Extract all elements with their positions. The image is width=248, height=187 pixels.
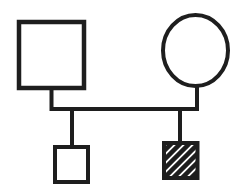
- pedigree-canvas: [0, 0, 248, 187]
- pedigree-diagram: [0, 0, 248, 187]
- parent-square-shape: [19, 22, 84, 88]
- child-square-hatched-shape: [164, 143, 198, 178]
- parent-circle-shape: [163, 15, 228, 86]
- child-square-open-shape: [55, 147, 88, 182]
